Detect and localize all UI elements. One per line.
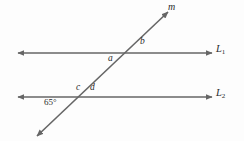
line-label-l1: L1 [216,44,225,56]
transversal-line-m [37,12,168,136]
transversal-label-m: m [168,2,175,12]
geometry-canvas [0,0,244,141]
line-label-l1-subscript: 1 [222,48,226,56]
angle-label-d: d [90,83,95,93]
line-label-l2: L2 [216,88,225,100]
angle-label-a: a [108,54,113,64]
angle-label-c: c [76,83,80,93]
angle-measure-65-degrees: 65° [44,98,57,107]
angle-label-b: b [140,37,145,47]
geometry-figure: m b a c d 65° L1 L2 [0,0,244,141]
line-label-l2-subscript: 2 [222,92,226,100]
